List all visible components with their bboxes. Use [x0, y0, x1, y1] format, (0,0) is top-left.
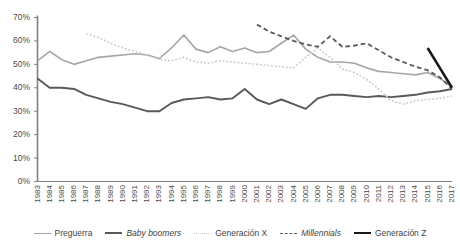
x-axis-tick-label: 2003 — [277, 185, 285, 203]
legend-swatch-icon — [194, 233, 211, 234]
x-axis-tick-label: 1993 — [155, 185, 163, 203]
x-axis-tick-label: 1984 — [46, 185, 54, 203]
x-axis-tick-label: 1999 — [229, 185, 237, 203]
legend-label: Preguerra — [55, 228, 93, 238]
x-axis-tick-label: 2000 — [241, 185, 249, 203]
legend-swatch-icon — [34, 233, 51, 234]
series-line-baby-boomers — [38, 78, 453, 111]
x-axis-tick-label: 1991 — [131, 185, 139, 203]
x-axis-tick-label: 2016 — [436, 185, 444, 203]
x-axis-tick-label: 2002 — [265, 185, 273, 203]
y-axis-tick-label: 0% — [2, 176, 30, 186]
x-axis-tick-label: 1998 — [216, 185, 224, 203]
legend-item-generaci-n-z[interactable]: Generación Z — [354, 228, 427, 238]
x-axis-tick-label: 2005 — [302, 185, 310, 203]
x-axis-tick-label: 2004 — [290, 185, 298, 203]
x-axis-tick-label: 2012 — [387, 185, 395, 203]
x-axis-tick-label: 1983 — [34, 185, 42, 203]
y-axis-tick-label: 70% — [2, 12, 30, 22]
legend-label: Baby boomers — [126, 228, 181, 238]
legend-label: Generación Z — [375, 228, 427, 238]
y-axis-tick-label: 20% — [2, 129, 30, 139]
series-line-preguerra — [38, 35, 453, 87]
legend-swatch-icon — [280, 233, 297, 234]
x-axis-tick-label: 1989 — [107, 185, 115, 203]
generational-line-chart: 0%10%20%30%40%50%60%70% 1983198419851986… — [0, 0, 460, 249]
x-axis-tick-label: 1988 — [94, 185, 102, 203]
series-line-generaci-n-z — [428, 48, 452, 88]
x-axis-tick-label: 2015 — [424, 185, 432, 203]
x-axis-tick-label: 1996 — [192, 185, 200, 203]
x-axis-tick-label: 2011 — [375, 185, 383, 202]
x-axis-tick-label: 1995 — [180, 185, 188, 203]
x-axis-tick-label: 2008 — [338, 185, 346, 203]
legend-label: Millennials — [301, 228, 341, 238]
x-axis-tick-label: 2007 — [326, 185, 334, 203]
x-axis-tick-label: 2010 — [363, 185, 371, 203]
x-axis-tick-label: 1997 — [204, 185, 212, 203]
legend-item-millennials[interactable]: Millennials — [280, 228, 341, 238]
x-axis-tick-label: 2009 — [350, 185, 358, 203]
y-axis-tick-label: 60% — [2, 35, 30, 45]
x-axis-tick-label: 2017 — [448, 185, 456, 203]
legend-swatch-icon — [354, 232, 371, 234]
x-axis-tick-label: 1992 — [143, 185, 151, 203]
x-axis-tick-label: 1986 — [70, 185, 78, 203]
y-axis-tick-label: 40% — [2, 82, 30, 92]
x-axis-tick-label: 2014 — [411, 185, 419, 203]
x-axis-tick-label: 1994 — [168, 185, 176, 203]
x-axis-tick-label: 1985 — [58, 185, 66, 203]
legend-label: Generación X — [215, 228, 267, 238]
y-axis-tick-label: 10% — [2, 153, 30, 163]
legend-item-baby-boomers[interactable]: Baby boomers — [105, 228, 181, 238]
chart-legend: PreguerraBaby boomersGeneración XMillenn… — [0, 222, 460, 244]
chart-plot-area — [0, 0, 460, 249]
x-axis-tick-label: 1987 — [82, 185, 90, 203]
y-axis-tick-label: 30% — [2, 106, 30, 116]
legend-item-generaci-n-x[interactable]: Generación X — [194, 228, 267, 238]
series-line-millennials — [257, 25, 452, 89]
x-axis-tick-label: 2006 — [314, 185, 322, 203]
legend-item-preguerra[interactable]: Preguerra — [34, 228, 93, 238]
y-axis-tick-label: 50% — [2, 59, 30, 69]
x-axis-tick-label: 1990 — [119, 185, 127, 203]
series-line-generaci-n-x — [86, 34, 452, 104]
x-axis-tick-label: 2001 — [253, 185, 261, 203]
x-axis-tick-label: 2013 — [399, 185, 407, 203]
legend-swatch-icon — [105, 232, 122, 234]
